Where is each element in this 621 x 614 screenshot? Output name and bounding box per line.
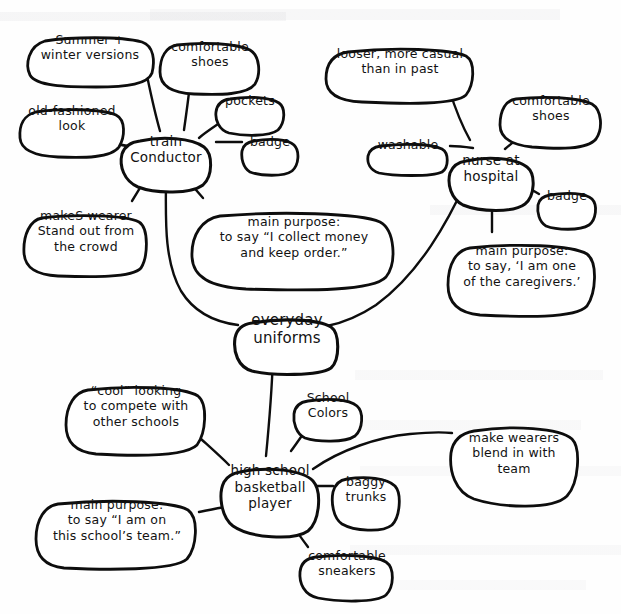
node-nurse-at-hospital[interactable]: nurse at hospital	[446, 140, 536, 196]
node-label: badge	[547, 188, 587, 203]
node-label: comfortable shoes	[512, 93, 590, 124]
node-train-conductor[interactable]: train Conductor	[118, 120, 214, 178]
node-label: train Conductor	[130, 133, 202, 166]
node-everyday-uniforms-hub[interactable]: everyday uniforms	[232, 300, 342, 358]
node-label: comfortable sneakers	[308, 548, 386, 579]
node-pockets[interactable]: pockets	[214, 80, 286, 122]
node-label: everyday uniforms	[251, 311, 323, 348]
node-label: main purpose: to say “I am on this schoo…	[53, 497, 181, 543]
node-label: main purpose: to say “I collect money an…	[220, 214, 369, 260]
node-badge-nurse[interactable]: badge	[536, 176, 598, 216]
node-comfortable-shoes-conductor[interactable]: comfortable shoes	[158, 26, 262, 82]
node-badge-conductor[interactable]: badge	[240, 122, 300, 162]
node-label: makeS wearer Stand out from the crowd	[38, 208, 135, 254]
node-label: comfortable shoes	[171, 39, 249, 70]
node-looser-more-casual[interactable]: looser, more casual than in past	[324, 32, 476, 90]
node-main-purpose-nurse[interactable]: main purpose: to say, ‘I am one of the c…	[446, 228, 598, 304]
node-cool-looking[interactable]: “cool” looking to compete with other sch…	[64, 370, 208, 442]
node-main-purpose-player[interactable]: main purpose: to say “I am on this schoo…	[34, 484, 200, 556]
node-comfortable-sneakers[interactable]: comfortable sneakers	[298, 538, 396, 588]
node-label: nurse at hospital	[462, 152, 519, 185]
node-label: School Colors	[307, 390, 350, 421]
node-old-fashioned-look[interactable]: old-fashioned look	[18, 92, 126, 144]
concept-map-canvas: Summer + winter versions old-fashioned l…	[0, 0, 621, 614]
node-summer-winter-versions[interactable]: Summer + winter versions	[24, 20, 156, 74]
node-label: badge	[250, 134, 290, 149]
node-label: washable	[378, 137, 439, 152]
node-label: high school basketball player	[230, 462, 309, 511]
node-main-purpose-conductor[interactable]: main purpose: to say “I collect money an…	[190, 196, 398, 278]
node-label: looser, more casual than in past	[337, 46, 463, 77]
node-washable[interactable]: washable	[366, 128, 450, 162]
node-label: “cool” looking to compete with other sch…	[84, 383, 189, 429]
node-makes-wearer-stand-out[interactable]: makeS wearer Stand out from the crowd	[22, 198, 150, 264]
node-high-school-basketball-player[interactable]: high school basketball player	[218, 450, 322, 524]
node-label: Summer + winter versions	[41, 32, 140, 63]
node-comfortable-shoes-nurse[interactable]: comfortable shoes	[498, 80, 604, 136]
node-make-wearers-blend-in[interactable]: make wearers blend in with team	[448, 410, 580, 496]
node-label: main purpose: to say, ‘I am one of the c…	[463, 243, 581, 289]
node-school-colors[interactable]: School Colors	[292, 382, 364, 428]
node-label: baggy trunks	[346, 474, 387, 505]
node-label: old-fashioned look	[28, 103, 115, 134]
node-baggy-trunks[interactable]: baggy trunks	[330, 460, 402, 518]
node-label: make wearers blend in with team	[469, 430, 559, 476]
node-label: pockets	[225, 93, 275, 108]
